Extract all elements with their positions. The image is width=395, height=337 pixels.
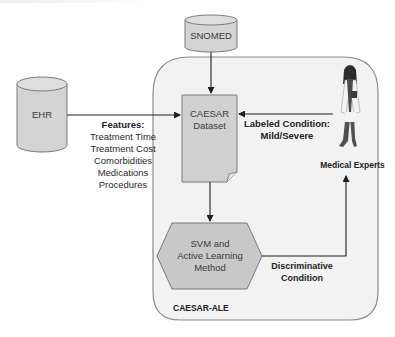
feature-item: Treatment Cost [68, 143, 178, 155]
labeled-condition-line1: Labeled Condition: [242, 118, 332, 130]
dataset-label-line1: CAESAR [182, 108, 237, 120]
ehr-label: EHR [17, 109, 67, 121]
medical-experts-label: Medical Experts [310, 159, 395, 171]
discriminative-line2: Condition [262, 272, 342, 284]
features-edge-label: Features: Treatment Time Treatment Cost … [68, 119, 178, 191]
method-label: SVM and Active Learning Method [160, 238, 260, 274]
feature-item: Comorbidities [68, 155, 178, 167]
features-title: Features: [68, 119, 178, 131]
method-label-line1: SVM and [160, 238, 260, 250]
dataset-label-line2: Dataset [182, 120, 237, 132]
discriminative-condition-edge-label: Discriminative Condition [262, 260, 342, 284]
feature-item: Medications [68, 167, 178, 179]
method-label-line2: Active Learning [160, 250, 260, 262]
feature-item: Procedures [68, 179, 178, 191]
container-label: CAESAR-ALE [173, 303, 229, 313]
labeled-condition-edge-label: Labeled Condition: Mild/Severe [242, 118, 332, 142]
snomed-label: SNOMED [185, 30, 237, 42]
feature-item: Treatment Time [68, 131, 178, 143]
dataset-label: CAESAR Dataset [182, 108, 237, 132]
labeled-condition-line2: Mild/Severe [242, 130, 332, 142]
method-label-line3: Method [160, 262, 260, 274]
discriminative-line1: Discriminative [262, 260, 342, 272]
